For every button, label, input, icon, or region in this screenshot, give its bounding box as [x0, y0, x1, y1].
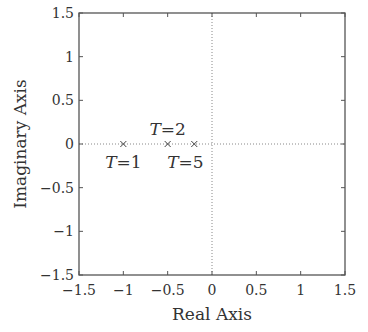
x-tick-label: −0.5 [151, 282, 185, 298]
annotations: T=1T=2T=5 [105, 119, 203, 172]
y-tick-label: 1 [65, 49, 74, 65]
y-tick-label: −0.5 [40, 180, 74, 196]
x-tick-label: 0 [208, 282, 217, 298]
y-tick-label: −1.5 [40, 267, 74, 283]
y-tick-label: −1 [53, 223, 74, 239]
reference-lines [79, 13, 345, 275]
x-tick-label: 1.5 [334, 282, 356, 298]
pole-markers [120, 141, 197, 147]
x-tick-label: 1 [296, 282, 305, 298]
pole-annotation: T=5 [167, 152, 203, 172]
y-tick-label: 1.5 [52, 5, 74, 21]
pole-plot: −1.5−1−0.500.511.51.510.50−0.5−1−1.5 T=1… [0, 0, 368, 332]
x-axis-label: Real Axis [172, 304, 252, 324]
pole-annotation: T=1 [105, 152, 141, 172]
x-tick-label: 0.5 [245, 282, 267, 298]
pole-annotation: T=2 [149, 119, 185, 139]
y-axis-label: Imaginary Axis [10, 79, 30, 209]
y-tick-label: 0 [65, 136, 74, 152]
x-tick-label: −1 [113, 282, 134, 298]
y-tick-label: 0.5 [52, 92, 74, 108]
x-tick-label: −1.5 [62, 282, 96, 298]
